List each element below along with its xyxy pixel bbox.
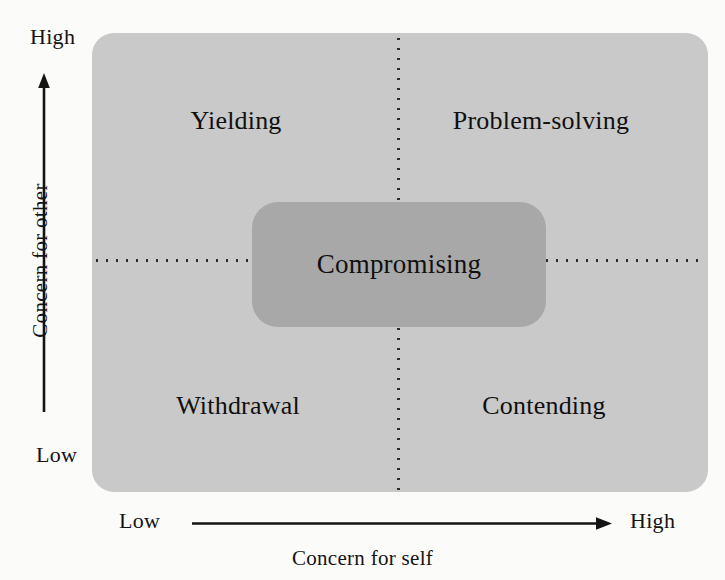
center-zone-compromising: Compromising bbox=[252, 202, 546, 327]
x-axis-arrow-icon bbox=[192, 516, 612, 531]
y-axis-high-label: High bbox=[30, 24, 75, 50]
x-axis-low-label: Low bbox=[119, 508, 160, 534]
quadrant-label-contending: Contending bbox=[482, 391, 605, 421]
y-axis-low-label: Low bbox=[36, 442, 77, 468]
quadrant-label-problem-solving: Problem-solving bbox=[453, 106, 629, 136]
y-axis-title: Concern for other bbox=[28, 151, 53, 371]
quadrant-label-yielding: Yielding bbox=[190, 106, 281, 136]
quadrant-label-withdrawal: Withdrawal bbox=[176, 391, 300, 421]
center-zone-label: Compromising bbox=[317, 249, 481, 280]
x-axis-high-label: High bbox=[630, 508, 675, 534]
conflict-style-diagram: High Low Concern for other Yielding Prob… bbox=[0, 0, 725, 580]
x-axis-title: Concern for self bbox=[0, 546, 725, 571]
